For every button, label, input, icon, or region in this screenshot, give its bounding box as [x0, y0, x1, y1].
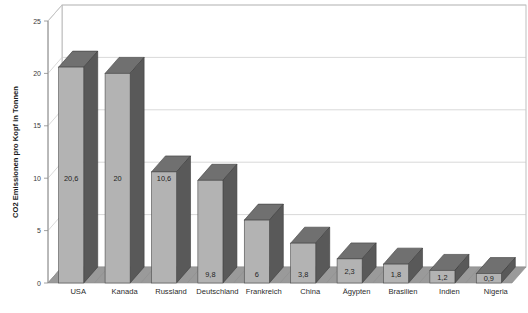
- y-axis-title: CO2 Emissionen pro Kopf in Tonnen: [11, 86, 20, 218]
- bar-deutschland: 9,8: [198, 164, 237, 283]
- y-axis-title-text: CO2 Emissionen pro Kopf in Tonnen: [11, 86, 20, 218]
- y-axis-tick-label: 10: [33, 175, 41, 182]
- category-label: Nigeria: [484, 287, 509, 296]
- bar-side-face: [130, 57, 144, 283]
- category-label: Brasilien: [388, 287, 417, 296]
- x-axis-category-labels: USAKanadaRusslandDeutschlandFrankreichCh…: [70, 287, 508, 296]
- category-label: Deutschland: [196, 287, 238, 296]
- category-label: Kanada: [112, 287, 139, 296]
- category-label: Indien: [439, 287, 460, 296]
- category-label: Frankreich: [246, 287, 282, 296]
- bar-value-label: 0,9: [484, 274, 494, 283]
- bar-value-label: 20,6: [64, 174, 78, 183]
- bar-value-label: 2,3: [344, 267, 354, 276]
- category-label: USA: [70, 287, 87, 296]
- bar-value-label: 10,6: [157, 174, 171, 183]
- category-label: Russland: [155, 287, 187, 296]
- bar-side-face: [223, 164, 237, 283]
- bar-value-label: 6: [255, 270, 259, 279]
- bar-value-label: 20: [113, 174, 121, 183]
- chart-y-axis: [44, 21, 48, 283]
- bar-value-label: 9,8: [205, 270, 215, 279]
- y-axis-tick-label: 0: [37, 280, 41, 287]
- y-axis-tick-label: 20: [33, 70, 41, 77]
- bar-frankreich: 6: [244, 204, 283, 283]
- chart-canvas: 0510152025 20,62010,69,863,82,31,81,20,9…: [0, 0, 528, 313]
- y-axis-tick-label: 5: [37, 227, 41, 234]
- bar-value-label: 3,8: [298, 270, 308, 279]
- category-label: Ägypten: [343, 287, 371, 296]
- bar-side-face: [177, 156, 191, 283]
- bar-front-face: [198, 180, 223, 283]
- bar-russland: 10,6: [151, 156, 190, 283]
- y-axis-tick-label: 25: [33, 18, 41, 25]
- y-axis-tick-label: 15: [33, 122, 41, 129]
- y-axis-tick-labels: 0510152025: [33, 18, 41, 287]
- category-label: China: [300, 287, 321, 296]
- bar-kanada: 20: [105, 57, 144, 283]
- co2-emissions-bar-chart: 0510152025 20,62010,69,863,82,31,81,20,9…: [0, 0, 528, 313]
- bar-value-label: 1,2: [437, 273, 447, 282]
- bar-usa: 20,6: [59, 51, 98, 283]
- bar-front-face: [151, 172, 176, 283]
- bar-side-face: [84, 51, 98, 283]
- bar-value-label: 1,8: [391, 270, 401, 279]
